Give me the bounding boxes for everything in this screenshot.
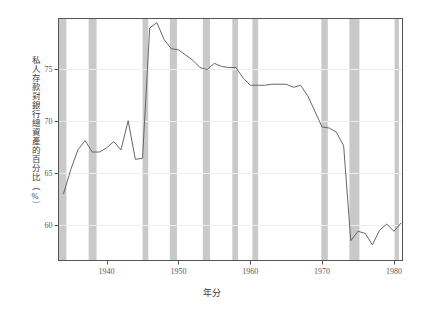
y-tick-label: 60 (35, 221, 53, 230)
recession-band (170, 19, 177, 261)
y-tick-label: 70 (35, 116, 53, 125)
y-tick-label: 65 (35, 168, 53, 177)
x-tick-label: 1970 (314, 267, 330, 276)
recession-band (232, 19, 238, 261)
y-tick-label: 75 (35, 64, 53, 73)
recession-bands-group (59, 19, 399, 261)
chart-plot-area (0, 0, 423, 317)
recession-band (89, 19, 97, 261)
recession-band (349, 19, 359, 261)
recession-band (252, 19, 258, 261)
recession-band (59, 19, 67, 261)
chart-figure: 私人存款對銀行總資產的百分比（%） 19401950196019701980 6… (0, 0, 423, 317)
tick-marks-group (55, 70, 395, 265)
x-tick-label: 1940 (99, 267, 115, 276)
x-tick-label: 1950 (170, 267, 186, 276)
recession-band (395, 19, 399, 261)
x-tick-label: 1960 (242, 267, 258, 276)
y-axis-label: 私人存款對銀行總資產的百分比（%） (16, 28, 40, 238)
recession-band (203, 19, 210, 261)
x-tick-label: 1980 (386, 267, 402, 276)
recession-band (321, 19, 327, 261)
x-axis-label: 年分 (0, 286, 423, 299)
